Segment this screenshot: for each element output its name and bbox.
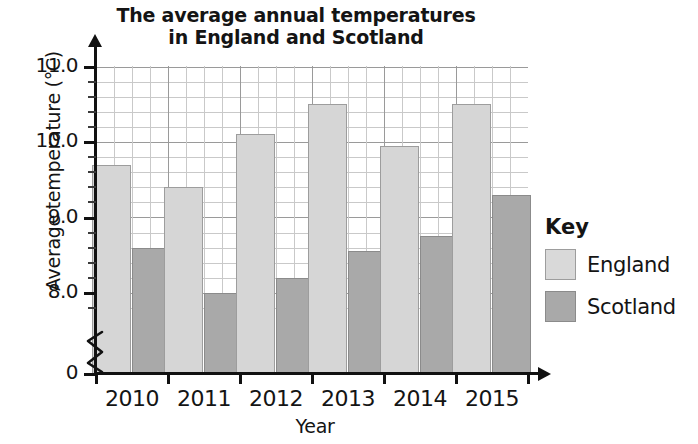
y-tick-label-9.0: 9.0 (4, 204, 78, 228)
y-tick-11.0 (84, 66, 97, 69)
y-minor-tick (88, 126, 96, 128)
bar-england-2012 (236, 134, 275, 374)
bar-england-2011 (164, 187, 203, 374)
x-axis-line (94, 372, 540, 375)
y-minor-tick (88, 96, 96, 98)
title-line-1: The average annual temperatures (96, 4, 496, 26)
y-minor-tick (88, 307, 96, 309)
bar-england-2014 (380, 146, 419, 374)
legend-item-england[interactable]: England (545, 249, 695, 280)
y-minor-tick (88, 262, 96, 264)
title-line-2: in England and Scotland (96, 26, 496, 48)
y-tick-label-11.0: 11.0 (4, 53, 78, 77)
bar-scotland-2015 (492, 195, 531, 374)
x-tick-4 (383, 372, 386, 384)
axis-break-zigzag-icon (82, 330, 106, 374)
y-tick-9.0 (84, 217, 97, 220)
legend-item-scotland[interactable]: Scotland (545, 291, 695, 322)
x-axis-title: Year (255, 415, 375, 437)
bar-england-2015 (452, 104, 491, 374)
y-tick-8.0 (84, 292, 97, 295)
y-axis-line (94, 44, 97, 376)
y-minor-tick (88, 171, 96, 173)
x-tick-1 (167, 372, 170, 384)
x-tick-0 (95, 372, 98, 384)
y-tick-label-0: 0 (4, 360, 78, 384)
x-tick-label-2015: 2015 (450, 386, 534, 411)
y-tick-10.0 (84, 141, 97, 144)
legend: Key England Scotland (545, 215, 695, 333)
legend-label-england: England (587, 253, 670, 277)
x-tick-5 (455, 372, 458, 384)
legend-swatch-scotland (545, 291, 576, 322)
y-axis-arrow-icon (88, 34, 102, 47)
y-tick-label-8.0: 8.0 (4, 279, 78, 303)
legend-title: Key (545, 215, 695, 239)
y-minor-tick (88, 247, 96, 249)
y-minor-tick (88, 186, 96, 188)
y-minor-tick (88, 232, 96, 234)
x-axis-arrow-icon (538, 367, 551, 381)
y-tick-label-10.0: 10.0 (4, 128, 78, 152)
x-tick-6 (527, 372, 530, 384)
y-minor-tick (88, 111, 96, 113)
y-minor-tick (88, 156, 96, 158)
y-minor-tick (88, 201, 96, 203)
y-minor-tick (88, 277, 96, 279)
legend-swatch-england (545, 249, 576, 280)
y-minor-tick (88, 81, 96, 83)
legend-label-scotland: Scotland (587, 295, 676, 319)
x-tick-2 (239, 372, 242, 384)
y-axis-title: Average temperature (°C) (42, 26, 64, 316)
bar-england-2013 (308, 104, 347, 374)
x-tick-3 (311, 372, 314, 384)
page-title: The average annual temperatures in Engla… (96, 4, 496, 49)
plot-area (96, 66, 528, 374)
